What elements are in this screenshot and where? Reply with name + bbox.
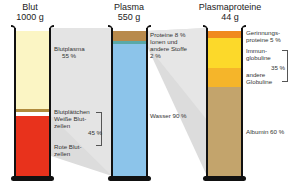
cylinder-base xyxy=(203,176,246,181)
red-cells-label: Rote Blut- xyxy=(54,143,82,150)
other-globulins-label: andere xyxy=(246,71,265,78)
cylinder-base xyxy=(11,176,54,181)
ions-label: Ionen und xyxy=(150,38,178,45)
blood-title: Blut 1000 g xyxy=(0,2,60,22)
albumin-segment xyxy=(208,87,241,177)
plasma-proteins-title: Plasmaproteine 44 g xyxy=(190,2,270,22)
clotting-proteins-segment xyxy=(208,31,241,38)
clotting-proteins-label: Gerinnungs- xyxy=(246,29,280,36)
cylinder-base xyxy=(108,176,151,181)
cells-pct: 45 % xyxy=(88,129,102,136)
ions-pct: 2 % xyxy=(150,52,161,59)
blood-cylinder xyxy=(14,28,51,177)
platelets-label: Blutplättchen xyxy=(54,108,90,115)
plasma-cylinder xyxy=(111,28,148,177)
plasma-title: Plasma 550 g xyxy=(99,2,159,22)
plasma-pct: 55 % xyxy=(62,52,76,59)
albumin-label: Albumin 60 % xyxy=(246,128,284,135)
proteins-label: Proteine 8 % xyxy=(150,31,185,38)
cylinder-lip xyxy=(49,25,54,33)
plasma-label: Blutplasma xyxy=(54,45,85,52)
water-segment xyxy=(113,44,146,177)
water-label: Wasser 90 % xyxy=(150,112,187,119)
plasma-segment xyxy=(16,31,49,109)
immunoglobulins-segment xyxy=(208,38,241,68)
immunoglobulins-label: Immun- xyxy=(246,47,267,54)
red-cells-segment xyxy=(16,116,49,177)
white-cells-label: Weiße Blut- xyxy=(54,115,86,122)
plasma-proteins-cylinder xyxy=(206,28,243,177)
other-globulins-segment xyxy=(208,68,241,87)
proteins-segment xyxy=(113,31,146,41)
globulins-pct: 35 % xyxy=(271,64,285,71)
